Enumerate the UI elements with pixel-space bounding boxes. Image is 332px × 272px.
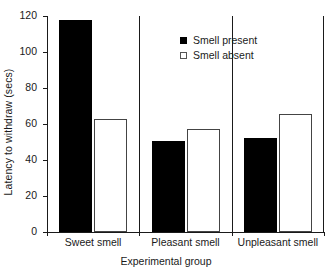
y-axis-tick-label: 0 [7, 225, 37, 238]
legend-label: Smell present [193, 34, 257, 47]
x-axis-line [47, 232, 324, 233]
y-axis-tick: 60 [43, 124, 47, 125]
y-axis-tick: 20 [43, 196, 47, 197]
y-axis-tick-label: 40 [7, 153, 37, 166]
y-axis-tick: 80 [43, 88, 47, 89]
bar [59, 20, 92, 232]
x-axis-tick [232, 232, 233, 236]
bar [152, 141, 185, 232]
y-axis-line [47, 16, 48, 233]
y-axis-tick-label: 80 [7, 81, 37, 94]
x-axis-tick [47, 232, 48, 236]
legend-item-smell-present: Smell present [180, 34, 257, 47]
y-axis-tick-label: 100 [7, 45, 37, 58]
chart-legend: Smell present Smell absent [180, 34, 257, 64]
legend-swatch-open-icon [180, 52, 187, 59]
bar [279, 114, 312, 232]
x-axis-tick [324, 232, 325, 236]
bar [94, 119, 127, 232]
bar [187, 129, 220, 232]
y-axis-tick: 120 [43, 16, 47, 17]
y-axis-tick-label: 60 [7, 117, 37, 130]
legend-item-smell-absent: Smell absent [180, 49, 257, 62]
bar-chart-figure: Latency to withdraw (secs) 0204060801001… [0, 0, 332, 272]
bar [244, 138, 277, 232]
legend-swatch-filled-icon [180, 37, 187, 44]
x-axis-tick [139, 232, 140, 236]
x-axis-tick-label: Unpleasant smell [238, 236, 319, 249]
x-axis-tick-label: Pleasant smell [151, 236, 219, 249]
legend-label: Smell absent [193, 49, 254, 62]
y-axis-tick: 100 [43, 52, 47, 53]
x-axis-title: Experimental group [0, 255, 332, 268]
group-separator [323, 16, 324, 232]
group-separator [139, 16, 140, 232]
x-axis-tick-label: Sweet smell [65, 236, 122, 249]
y-axis-tick-label: 20 [7, 189, 37, 202]
y-axis-tick: 40 [43, 160, 47, 161]
y-axis-tick-label: 120 [7, 9, 37, 22]
